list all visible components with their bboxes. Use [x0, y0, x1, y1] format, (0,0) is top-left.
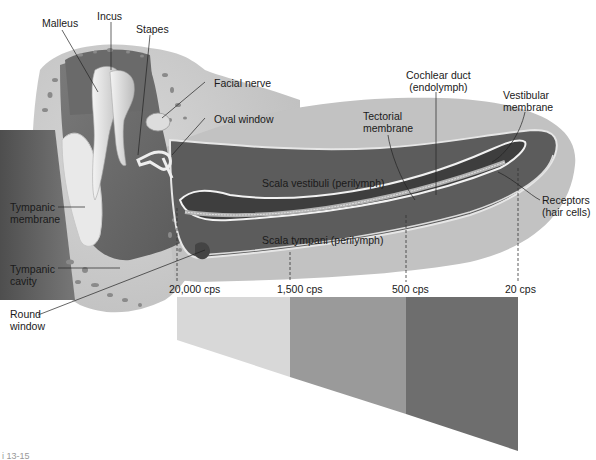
label-oval-window: Oval window: [214, 113, 274, 125]
label-scala-tympani: Scala tympani (perilymph): [262, 234, 383, 246]
freq-label-20: 20 cps: [505, 283, 536, 295]
label-receptors: Receptors (hair cells): [542, 194, 590, 218]
facial-nerve: [146, 113, 170, 131]
label-vestibular-membrane: Vestibular membrane: [503, 89, 553, 113]
ear-diagram: Malleus Incus Stapes Facial nerve Oval w…: [0, 0, 596, 460]
label-tectorial-membrane: Tectorial membrane: [363, 110, 413, 134]
label-cochlear-duct: Cochlear duct (endolymph): [406, 69, 471, 93]
label-tympanic-membrane: Tympanic membrane: [10, 201, 60, 225]
band-high: [177, 297, 290, 377]
freq-label-500: 500 cps: [392, 283, 429, 295]
freq-label-1500: 1,500 cps: [277, 283, 323, 295]
figure-caption-fragment: i 13-15: [2, 451, 30, 460]
band-mid: [290, 297, 406, 414]
freq-label-20000: 20,000 cps: [169, 283, 220, 295]
ear-illustration: [0, 0, 596, 460]
label-malleus: Malleus: [42, 17, 78, 29]
label-stapes: Stapes: [136, 23, 169, 35]
label-tympanic-cavity: Tympanic cavity: [10, 263, 55, 287]
label-round-window: Round window: [10, 308, 45, 332]
band-low: [406, 297, 518, 451]
label-scala-vestibuli: Scala vestibuli (perilymph): [262, 177, 385, 189]
label-incus: Incus: [97, 10, 122, 22]
label-facial-nerve: Facial nerve: [214, 77, 271, 89]
